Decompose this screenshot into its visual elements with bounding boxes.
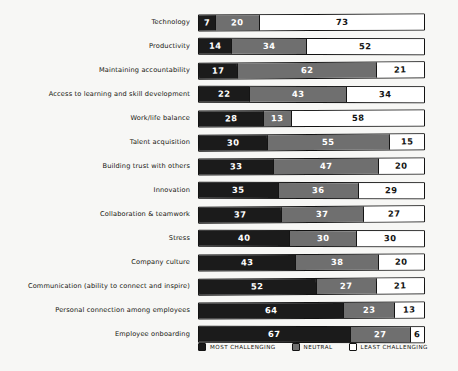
segment-value: 73 — [336, 18, 349, 27]
segment-value: 21 — [394, 281, 407, 290]
category-label: Talent acquisition — [0, 139, 198, 146]
chart-row: Work/life balance281358 — [0, 106, 458, 130]
chart-row: Innovation353629 — [0, 178, 458, 202]
segment-value: 23 — [363, 305, 376, 314]
segment-value: 58 — [352, 113, 365, 122]
category-label: Communication (ability to connect and in… — [0, 283, 198, 290]
category-label: Employee onboarding — [0, 331, 198, 338]
bar-track: 373727 — [198, 205, 425, 223]
segment-value: 28 — [224, 114, 237, 123]
bar-segment-least: 6 — [410, 327, 424, 342]
chart-row: Collaboration & teamwork373727 — [0, 202, 458, 226]
bar-segment-most: 40 — [199, 230, 289, 245]
legend-label: NEUTRAL — [304, 344, 333, 350]
bar-segment-most: 43 — [199, 255, 295, 270]
legend-swatch-least-icon — [349, 343, 357, 351]
bar-segment-least: 21 — [377, 62, 424, 77]
legend-label: LEAST CHALLENGING — [361, 344, 428, 350]
legend-swatch-neutral-icon — [292, 343, 300, 351]
category-label: Collaboration & teamwork — [0, 211, 198, 218]
bar-track: 72073 — [198, 13, 425, 31]
legend-item-neutral[interactable]: NEUTRAL — [292, 343, 333, 351]
segment-value: 21 — [394, 65, 407, 74]
segment-value: 22 — [218, 89, 231, 98]
bar-segment-least: 21 — [377, 278, 424, 293]
legend-label: MOST CHALLENGING — [210, 344, 276, 350]
bar-segment-neutral: 43 — [249, 86, 347, 101]
category-label: Personal connection among employees — [0, 307, 198, 314]
chart-row: Communication (ability to connect and in… — [0, 274, 458, 298]
bar-segment-neutral: 55 — [266, 134, 390, 150]
chart-row: Personal connection among employees64231… — [0, 298, 458, 322]
bar-segment-most: 64 — [199, 302, 343, 318]
bar-segment-least: 30 — [356, 231, 424, 246]
bar-track: 334720 — [198, 157, 425, 175]
bar-segment-most: 37 — [199, 207, 282, 223]
legend-item-least[interactable]: LEAST CHALLENGING — [349, 343, 428, 351]
chart-legend: MOST CHALLENGINGNEUTRALLEAST CHALLENGING — [198, 343, 448, 351]
segment-value: 37 — [234, 210, 247, 219]
segment-value: 43 — [241, 258, 254, 267]
segment-value: 52 — [359, 42, 372, 51]
category-label: Stress — [0, 235, 198, 242]
bar-track: 67276 — [198, 325, 425, 343]
segment-value: 27 — [388, 209, 401, 218]
segment-value: 35 — [232, 185, 245, 194]
bar-segment-least: 13 — [395, 302, 424, 317]
segment-value: 67 — [268, 330, 281, 339]
segment-value: 36 — [312, 186, 325, 195]
bar-segment-neutral: 27 — [350, 327, 411, 342]
category-label: Access to learning and skill development — [0, 91, 198, 98]
segment-value: 14 — [208, 41, 221, 50]
segment-value: 34 — [262, 42, 275, 51]
chart-row: Productivity143452 — [0, 34, 458, 58]
bar-segment-most: 28 — [199, 111, 263, 126]
segment-value: 30 — [384, 234, 397, 243]
bar-segment-neutral: 47 — [273, 158, 379, 173]
segment-value: 30 — [316, 234, 329, 243]
bar-segment-neutral: 34 — [230, 38, 307, 53]
bar-segment-least: 29 — [359, 183, 424, 198]
segment-value: 47 — [320, 162, 333, 171]
segment-value: 62 — [301, 66, 314, 75]
segment-value: 13 — [271, 114, 284, 123]
bar-segment-least: 27 — [364, 206, 424, 221]
segment-value: 34 — [379, 90, 392, 99]
bar-segment-least: 58 — [292, 110, 424, 126]
bar-track: 143452 — [198, 37, 425, 55]
bar-segment-neutral: 23 — [343, 302, 395, 317]
segment-value: 33 — [230, 162, 243, 171]
bar-track: 281358 — [198, 109, 425, 127]
bar-segment-least: 15 — [390, 134, 424, 149]
segment-value: 20 — [395, 161, 408, 170]
chart-row: Building trust with others334720 — [0, 154, 458, 178]
legend-swatch-most-icon — [198, 343, 206, 351]
segment-value: 7 — [204, 18, 210, 27]
chart-row: Company culture433820 — [0, 250, 458, 274]
bar-segment-neutral: 36 — [278, 182, 359, 197]
segment-value: 15 — [401, 137, 414, 146]
legend-item-most[interactable]: MOST CHALLENGING — [198, 343, 276, 351]
bar-segment-least: 73 — [260, 14, 424, 30]
segment-value: 40 — [238, 233, 251, 242]
segment-value: 6 — [414, 330, 420, 339]
bar-segment-most: 17 — [199, 63, 237, 78]
segment-value: 20 — [231, 18, 244, 27]
bar-segment-most: 22 — [199, 86, 249, 101]
segment-value: 29 — [385, 186, 398, 195]
segment-value: 38 — [331, 258, 344, 267]
bar-track: 353629 — [198, 181, 425, 199]
bar-track: 224334 — [198, 85, 425, 103]
bar-track: 642313 — [198, 301, 425, 319]
segment-value: 55 — [322, 138, 335, 147]
bar-segment-neutral: 30 — [289, 230, 357, 245]
bar-segment-most: 30 — [199, 135, 267, 150]
category-label: Work/life balance — [0, 115, 198, 122]
bar-segment-least: 20 — [379, 254, 424, 269]
bar-segment-neutral: 13 — [263, 111, 293, 126]
bar-segment-neutral: 62 — [237, 62, 377, 78]
bar-segment-least: 34 — [347, 87, 424, 102]
segment-value: 27 — [340, 281, 353, 290]
chart-row: Technology72073 — [0, 10, 458, 34]
category-label: Innovation — [0, 187, 198, 194]
